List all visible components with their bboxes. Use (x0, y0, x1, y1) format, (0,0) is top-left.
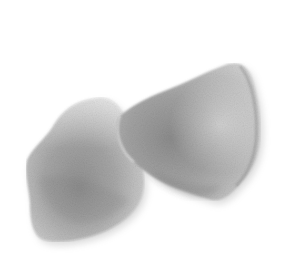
rose-petals-illustration (0, 0, 287, 269)
photo-scene: two white rose petals (0, 0, 287, 269)
